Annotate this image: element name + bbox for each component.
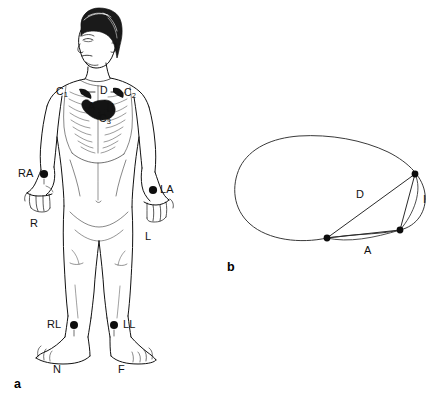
human-figure-outline — [25, 8, 174, 364]
chest-electrode-label-a: A — [88, 101, 95, 112]
figure-artwork — [0, 0, 443, 402]
lead-vector-label-d: D — [356, 189, 364, 200]
limb-electrode-label-ll: LL — [123, 319, 135, 330]
limb-electrode-label-ra: RA — [18, 168, 33, 179]
chest-electrode-label-c1: C1 — [56, 86, 68, 97]
limb-designation-l: L — [145, 231, 151, 242]
panel-label-a: a — [14, 378, 21, 391]
ecg-electrode-figure: C1 D C2 A I C3 RA LA RL LL R L N F D I A… — [0, 0, 443, 402]
chest-electrode-label-c3: C3 — [99, 113, 111, 124]
limb-designation-r: R — [30, 218, 38, 229]
chest-electrode-label-c2: C2 — [124, 87, 136, 98]
lead-vector-label-a: A — [364, 245, 371, 256]
limb-designation-f: F — [118, 364, 125, 375]
panel-label-b: b — [227, 261, 235, 274]
limb-designation-n: N — [53, 364, 61, 375]
chest-electrode-label-i: I — [111, 102, 114, 113]
chest-electrode-label-d: D — [100, 85, 108, 96]
torso-cross-section — [235, 136, 426, 242]
lead-vector-label-i: I — [423, 194, 426, 205]
limb-electrode-label-rl: RL — [47, 319, 61, 330]
limb-electrode-label-la: LA — [160, 184, 174, 195]
